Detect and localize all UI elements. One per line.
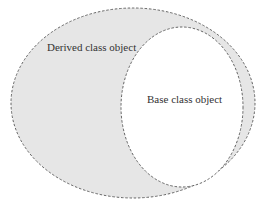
class-object-diagram: Derived class object Base class object	[0, 0, 262, 211]
base-class-object-label: Base class object	[147, 93, 222, 105]
base-class-object-shape	[121, 27, 243, 187]
derived-class-object-label: Derived class object	[47, 41, 136, 53]
